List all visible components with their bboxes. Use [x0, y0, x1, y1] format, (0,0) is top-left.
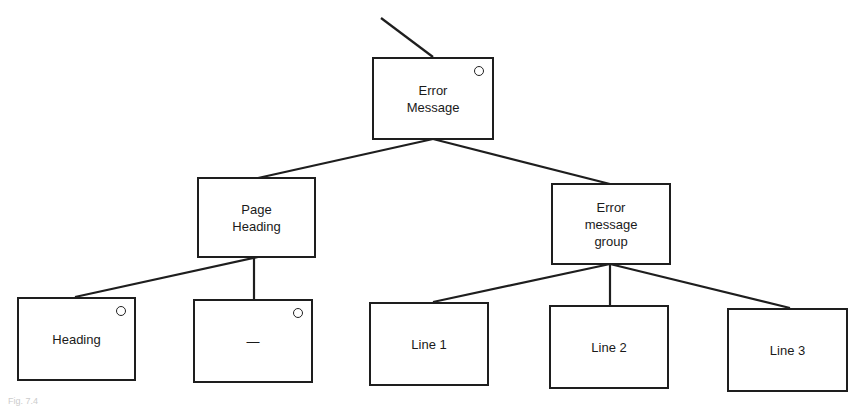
node-heading: Heading: [17, 297, 136, 381]
node-label: —: [247, 333, 260, 350]
node-label: Error message group: [585, 199, 638, 250]
node-line-2: Line 2: [549, 305, 669, 389]
node-label: Line 2: [591, 339, 626, 356]
circle-marker-icon: [293, 308, 303, 318]
node-error-message-group: Error message group: [551, 183, 671, 265]
node-line-3: Line 3: [727, 308, 848, 392]
node-label: Heading: [52, 331, 100, 348]
node-page-heading: Page Heading: [197, 177, 316, 258]
node-error-message: Error Message: [372, 57, 494, 140]
node-dash: —: [193, 299, 313, 383]
circle-marker-icon: [116, 306, 126, 316]
node-label: Line 1: [411, 336, 446, 353]
circle-marker-icon: [474, 66, 484, 76]
node-label: Error Message: [407, 82, 460, 116]
node-line-1: Line 1: [369, 302, 489, 386]
figure-caption: Fig. 7.4: [8, 396, 38, 406]
node-label: Page Heading: [232, 201, 280, 235]
node-label: Line 3: [770, 342, 805, 359]
